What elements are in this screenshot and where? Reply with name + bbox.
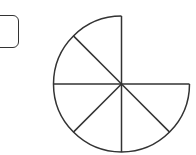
radius-lower-right	[122, 84, 170, 132]
sector-diagram	[0, 0, 196, 155]
radius-upper-left	[73, 36, 121, 84]
radius-lower-left	[73, 84, 121, 132]
